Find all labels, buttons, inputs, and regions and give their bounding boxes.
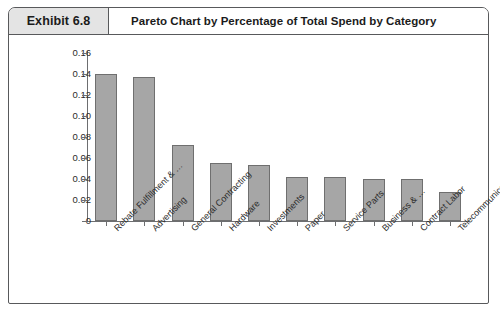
- x-tick-label: Advertising: [150, 226, 157, 233]
- exhibit-tag: Exhibit 6.8: [9, 8, 109, 34]
- x-tick-label: Contract Labor: [418, 226, 425, 233]
- x-tick-label: Paper: [303, 226, 310, 233]
- x-tick-label: General Contracting: [189, 226, 196, 233]
- x-tick-label: Service Parts: [341, 226, 348, 233]
- plot-area: 0.160.140.120.100.080.060.040.020 Rebate…: [9, 35, 488, 303]
- exhibit-frame: Exhibit 6.8 Pareto Chart by Percentage o…: [8, 7, 489, 304]
- exhibit-header: Exhibit 6.8 Pareto Chart by Percentage o…: [9, 8, 488, 35]
- x-tick-label: Investments: [265, 226, 272, 233]
- x-axis-labels: Rebate Fulfillment & …AdvertisingGeneral…: [9, 35, 488, 303]
- exhibit-title-cell: Pareto Chart by Percentage of Total Spen…: [109, 8, 488, 34]
- exhibit-tag-label: Exhibit 6.8: [27, 14, 91, 28]
- x-tick-label: Hardware: [227, 226, 234, 233]
- x-tick-label: Business & …: [380, 226, 387, 233]
- x-tick-label: Rebate Fulfillment & …: [112, 226, 119, 233]
- pareto-chart: 0.160.140.120.100.080.060.040.020 Rebate…: [9, 35, 488, 303]
- exhibit-title: Pareto Chart by Percentage of Total Spen…: [131, 15, 436, 27]
- x-tick-label: Telecommunications: [456, 226, 463, 233]
